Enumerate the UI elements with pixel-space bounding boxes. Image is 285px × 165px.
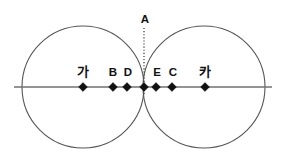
figure-container: A 가 B D E C 카: [0, 0, 285, 165]
apex-label-a: A: [141, 13, 149, 25]
point-label-b: B: [109, 66, 117, 78]
point-marker-d: [123, 83, 132, 92]
point-marker-e: [152, 83, 161, 92]
point-marker-b: [109, 83, 118, 92]
point-label-c: C: [169, 66, 177, 78]
point-label-d: D: [124, 66, 132, 78]
point-marker-ka: [201, 83, 210, 92]
point-marker-c: [168, 83, 177, 92]
point-marker-ga: [79, 83, 88, 92]
point-label-e: E: [153, 66, 161, 78]
point-label-ka: 카: [199, 64, 211, 79]
point-label-ga: 가: [77, 64, 89, 79]
geometry-figure: A 가 B D E C 카: [0, 0, 285, 165]
point-marker-tangent: [140, 83, 149, 92]
